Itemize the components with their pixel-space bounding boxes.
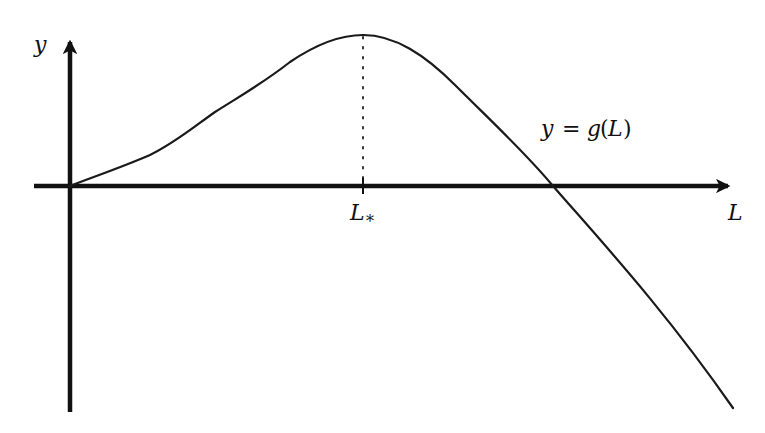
svg-text:y: y [540,116,554,141]
y-axis-label: y [33,32,47,57]
svg-text:L: L [349,200,365,225]
function-graph: y L L * y = g ( L ) [0,0,765,433]
l-star-label: L * [349,200,374,231]
curve-g-of-L [70,35,733,408]
svg-text:*: * [366,212,374,231]
svg-text:=: = [562,116,580,141]
x-axis-label: L [727,200,743,225]
svg-text:L: L [607,116,623,141]
svg-text:): ) [623,116,632,141]
curve-label: y = g ( L ) [540,116,632,141]
svg-text:g: g [587,116,601,141]
